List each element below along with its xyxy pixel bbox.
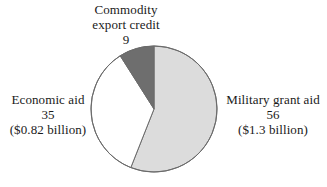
label-value: 35 [0,107,98,122]
slice-label-economic-aid: Economic aid 35 ($0.82 billion) [0,92,98,137]
label-value: 56 [218,107,327,122]
label-amount: ($1.3 billion) [218,122,327,137]
label-line-1: Military grant aid [218,92,327,107]
label-value: 9 [60,32,192,47]
pie-svg [90,45,218,173]
label-line-2: export credit [60,17,192,32]
pie-chart-graphic [90,45,218,173]
label-line-1: Economic aid [0,92,98,107]
label-line-1: Commodity [60,2,192,17]
pie-chart-figure: Commodity export credit 9 Economic aid 3… [0,0,327,187]
slice-label-military-grant-aid: Military grant aid 56 ($1.3 billion) [218,92,327,137]
slice-label-commodity-export-credit: Commodity export credit 9 [60,2,192,47]
label-amount: ($0.82 billion) [0,122,98,137]
